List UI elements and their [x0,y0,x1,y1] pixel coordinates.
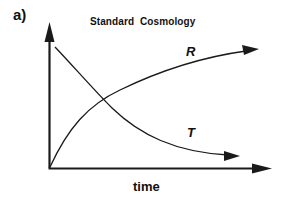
x-axis-arrowhead-icon [252,164,272,174]
curve-r-arrowhead-icon [242,45,259,55]
curve-t-arrowhead-icon [224,151,240,161]
standard-cosmology-diagram: a) Standard Cosmology R T time [0,0,281,199]
diagram-canvas [0,0,281,199]
diagram-title: Standard Cosmology [90,17,195,27]
y-axis-arrowhead-icon [45,22,55,42]
curve-t-label: T [187,126,195,139]
curve-t [55,47,240,161]
y-axis [45,22,55,168]
x-axis [49,164,273,174]
curve-r-label: R [186,45,195,58]
x-axis-label: time [133,180,160,193]
curve-r [50,45,259,167]
panel-label: a) [13,7,26,22]
